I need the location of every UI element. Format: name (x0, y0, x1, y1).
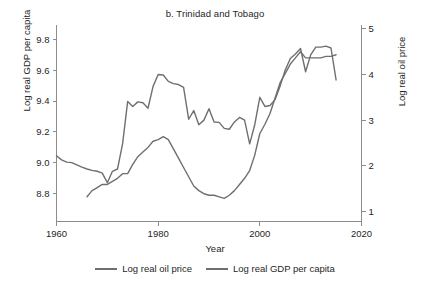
series-group (57, 46, 337, 198)
plot-area: 8.89.09.29.49.69.8123451960198020002020 (0, 0, 430, 287)
y-tick-label-left: 9.0 (36, 157, 49, 168)
legend-item[interactable]: Log real GDP per capita (206, 263, 335, 274)
tick-labels-group: 8.89.09.29.49.69.8123451960198020002020 (36, 23, 374, 238)
y-tick-label-left: 9.8 (36, 34, 49, 45)
series-line-log-real-oil-price (57, 46, 337, 183)
y-tick-label-left: 8.8 (36, 188, 49, 199)
legend-item[interactable]: Log real oil price (95, 263, 192, 274)
legend-swatch-icon (206, 268, 228, 270)
x-tick-label: 2000 (249, 228, 270, 239)
legend-label: Log real oil price (122, 263, 192, 274)
axes-group (57, 25, 362, 222)
y-tick-label-right: 4 (369, 69, 374, 80)
y-tick-label-left: 9.2 (36, 126, 49, 137)
x-tick-label: 2020 (351, 228, 372, 239)
x-tick-label: 1960 (46, 228, 67, 239)
chart-legend: Log real oil priceLog real GDP per capit… (0, 263, 430, 274)
legend-label: Log real GDP per capita (233, 263, 335, 274)
y-tick-label-right: 3 (369, 115, 374, 126)
y-tick-label-left: 9.6 (36, 65, 49, 76)
y-tick-label-right: 1 (369, 206, 374, 217)
y-tick-label-right: 2 (369, 160, 374, 171)
x-tick-label: 1980 (148, 228, 169, 239)
y-tick-label-right: 5 (369, 23, 374, 34)
y-tick-label-left: 9.4 (36, 95, 49, 106)
chart-figure: b. Trinidad and Tobago Log real GDP per … (0, 0, 430, 287)
legend-swatch-icon (95, 268, 117, 270)
